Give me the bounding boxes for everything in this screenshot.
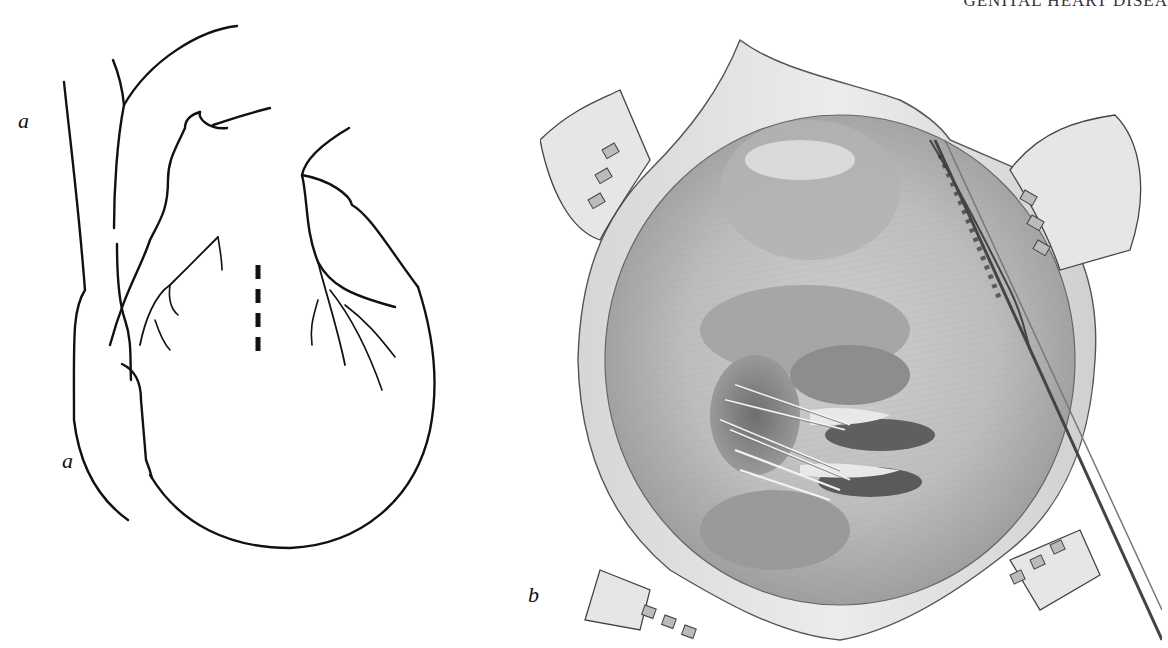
figure-b-surgical-view — [540, 30, 1162, 648]
running-header: GENITAL HEART DISEA — [963, 0, 1168, 11]
figure-a-heart-drawing — [0, 0, 520, 648]
figure-b-label: b — [528, 582, 539, 608]
